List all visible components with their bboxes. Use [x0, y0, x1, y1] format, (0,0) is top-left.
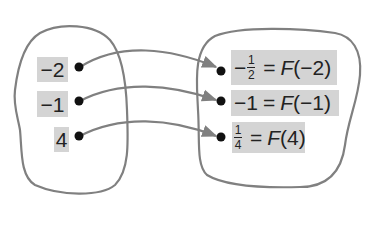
function-name: F — [280, 91, 293, 115]
equals-sign: = — [263, 56, 275, 80]
range-label-1: − 1 2 = F (−2) — [231, 50, 337, 85]
domain-dot-2 — [75, 97, 84, 106]
function-name: F — [281, 56, 294, 80]
function-argument: (4) — [280, 126, 306, 150]
equals-sign: = — [263, 91, 275, 115]
equals-sign: = — [250, 126, 262, 150]
mapping-arrow-2 — [80, 87, 216, 101]
fraction-numerator: 1 — [235, 124, 242, 136]
range-value: −1 — [234, 91, 258, 115]
range-label-2: −1 = F (−1) — [231, 90, 339, 116]
range-label-3: 1 4 = F (4) — [232, 122, 305, 153]
domain-dot-1 — [75, 63, 84, 72]
fraction: 1 4 — [234, 124, 242, 151]
fraction-denominator: 4 — [235, 139, 242, 151]
domain-label-2: −1 — [37, 91, 68, 117]
domain-dot-3 — [75, 132, 84, 141]
range-value-sign: − — [234, 56, 246, 80]
fraction-numerator: 1 — [248, 54, 255, 66]
range-dot-3 — [217, 133, 226, 142]
domain-set-outline — [15, 26, 128, 194]
function-argument: (−1) — [293, 91, 331, 115]
function-name: F — [267, 126, 280, 150]
mapping-arrow-3 — [80, 121, 216, 136]
range-dot-2 — [217, 97, 226, 106]
function-argument: (−2) — [293, 56, 331, 80]
domain-label-1: −2 — [37, 57, 68, 82]
fraction-denominator: 2 — [248, 69, 255, 81]
mapping-arrow-1 — [80, 50, 216, 67]
domain-label-3: 4 — [54, 127, 69, 152]
range-dot-1 — [217, 67, 226, 76]
fraction: 1 2 — [247, 54, 255, 81]
